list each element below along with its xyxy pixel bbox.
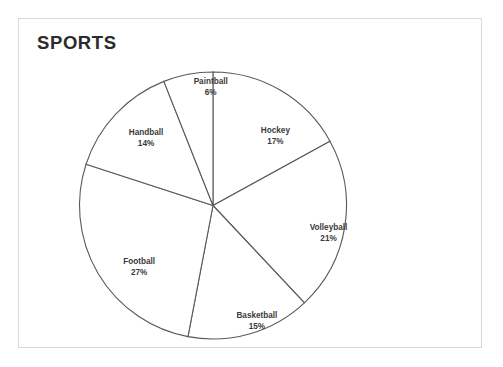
page-root: SPORTS Hockey17%Volleyball21%Basketball1… xyxy=(0,0,503,367)
pie-slice-group xyxy=(79,72,346,339)
chart-frame: SPORTS Hockey17%Volleyball21%Basketball1… xyxy=(18,18,482,348)
pie-chart xyxy=(19,19,483,349)
